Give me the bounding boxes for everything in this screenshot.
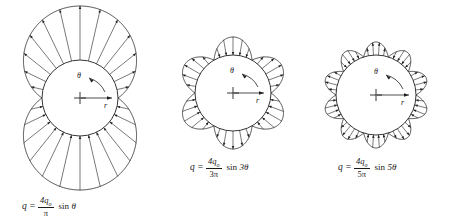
sin-5theta-load-arrowhead [401,136,404,139]
sin-5theta-load-arrowhead [336,110,339,112]
trig-argument: 5θ [387,162,396,172]
panel-sin-theta: r θ q = 4qo π sin θ [0,0,160,223]
formula-denominator: π [38,207,54,217]
formula-equals: = [346,163,351,173]
trig-name: sin [227,162,238,172]
numerator-text: 4q [40,195,49,205]
formula-denominator: 3π [206,168,222,178]
sin-theta-load-arrow [110,122,136,143]
theta-label: θ [230,66,234,75]
formula-fraction: 4qo 3π [206,157,222,179]
numerator-subscript: o [217,162,220,168]
trig-argument: 3θ [239,162,248,172]
sin-5theta-load-arrowhead [413,110,416,112]
numerator-text: 4q [208,156,217,166]
sin-5theta-load-arrowhead [397,58,400,61]
formula-sin-3theta: q = 4qo 3π sin 3θ [190,157,248,179]
sin-5theta-load-arrowhead [421,76,424,78]
formula-trig: sin 3θ [227,163,249,172]
numerator-subscript: o [49,201,52,207]
sin-3theta-load-arrowhead [194,106,197,108]
sin-theta-load-arrow [24,53,50,74]
sin-3theta-load-arrowhead [232,52,235,55]
sin-theta-load-arrow [110,53,136,74]
formula-trig: sin θ [59,202,76,211]
formula-fraction: 4qo π [38,196,54,218]
sin-3theta-load-arrowhead [247,134,249,137]
sin-5theta-load-arrowhead [327,76,330,78]
sin-theta-load-arrow [96,20,117,64]
formula-lhs: q [338,163,343,173]
sin-3theta-load-arrowhead [246,54,248,57]
trig-name: sin [375,162,386,172]
panel-sin-theta-drawing: r θ [0,0,160,200]
theta-label: θ [374,67,378,76]
sin-theta-load-arrow [24,122,50,143]
sin-3theta-load-arrowhead [269,106,272,108]
formula-fraction: 4qo 5π [354,157,370,179]
formula-numerator: 4qo [354,157,370,168]
trig-name: sin [59,201,70,211]
numerator-text: 4q [356,156,365,166]
sin-3theta-load-arrowhead [232,146,235,149]
formula-denominator: 5π [354,168,370,178]
panel-sin-5theta: r θ q = 4qo 5π sin 5θ [308,0,454,223]
formula-numerator: 4qo [38,196,54,207]
theta-label: θ [77,71,81,80]
formula-equals: = [30,202,35,212]
sin-5theta-load-arrowhead [348,136,351,139]
trig-argument: θ [71,201,75,211]
sin-theta-load-arrow [60,10,72,61]
sin-3theta-load-arrowhead [218,54,220,57]
sin-theta-load-arrow [88,135,100,186]
sin-3theta-load-arrowhead [217,134,219,137]
formula-equals: = [198,163,203,173]
formula-lhs: q [22,202,27,212]
numerator-subscript: o [365,162,368,168]
panel-sin-3theta: r θ q = 4qo 3π sin 3θ [163,0,303,223]
sin-theta-load-arrowhead [79,6,82,9]
sin-theta-load-arrow [60,135,72,186]
sin-5theta-load-arrowhead [352,58,355,61]
sin-theta-load-arrow [96,132,117,176]
formula-numerator: 4qo [206,157,222,168]
formula-lhs: q [190,163,195,173]
sin-theta-load-arrow [42,20,63,64]
figure-root: r θ q = 4qo π sin θ [0,0,454,223]
formula-sin-5theta: q = 4qo 5π sin 5θ [338,157,396,179]
sin-theta-load-arrow [42,132,63,176]
formula-sin-theta: q = 4qo π sin θ [22,196,76,218]
sin-theta-load-arrow [88,10,100,61]
formula-trig: sin 5θ [375,163,397,172]
